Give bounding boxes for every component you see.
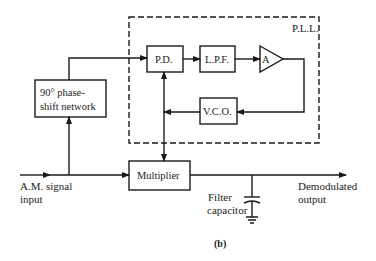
output-label-line1: Demodulated [298, 180, 357, 193]
amplifier-label: A [262, 53, 270, 66]
figure-caption: (b) [214, 237, 226, 250]
phase-shift-label-line2: shift network [40, 100, 96, 113]
phase-shift-to-pd-wire [69, 58, 147, 80]
output-label-line2: output [298, 193, 326, 206]
input-label-line2: input [20, 193, 43, 206]
phase-shift-label-line1: 90° phase- [40, 86, 85, 99]
pll-am-demodulator-diagram [0, 0, 376, 261]
multiplier-label: Multiplier [137, 169, 180, 182]
pll-label: P.L.L. [292, 22, 319, 35]
capacitor-label-line1: Filter [208, 191, 232, 204]
ground-icon [246, 217, 258, 223]
phase-detector-label: P.D. [155, 53, 173, 66]
low-pass-filter-label: L.P.F. [205, 53, 229, 66]
vco-label: V.C.O. [203, 105, 232, 118]
input-label-line1: A.M. signal [20, 180, 72, 193]
capacitor-label-line2: capacitor [207, 204, 247, 217]
amp-to-vco-loop [237, 59, 304, 112]
